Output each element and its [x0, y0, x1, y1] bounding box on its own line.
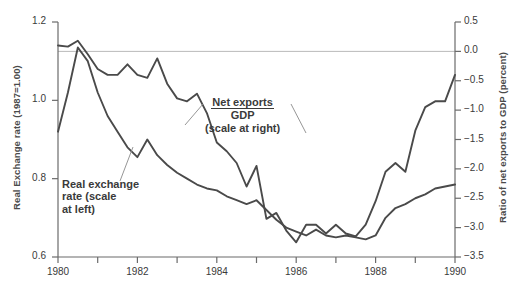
x-axis-tick-label: 1988 [354, 266, 398, 277]
annotation-leader-left [120, 147, 133, 181]
y-axis-right-tick-label: 0.0 [464, 44, 496, 55]
y-axis-right-tick-label: −3.0 [464, 221, 496, 232]
annotation-net-exports-gdp: Net exports GDP (scale at right) [205, 96, 280, 134]
annotation-scale-note: (scale at right) [205, 122, 280, 134]
annotation-leader-right-upper [185, 104, 203, 125]
y-axis-right-tick-label: −2.0 [464, 162, 496, 173]
y-axis-left-tick-label: 0.6 [20, 250, 46, 261]
y-axis-right-tick-label: −1.0 [464, 103, 496, 114]
plot-canvas [0, 0, 513, 293]
y-axis-right-tick-label: 0.5 [464, 15, 496, 26]
y-axis-left-tick-label: 0.8 [20, 172, 46, 183]
annotation-line-3: at left) [62, 203, 95, 215]
y-axis-left-tick-label: 1.0 [20, 93, 46, 104]
annotation-leader-right-lower [291, 104, 306, 133]
y-axis-left-tick-label: 1.2 [20, 15, 46, 26]
x-axis-tick-label: 1986 [274, 266, 318, 277]
annotation-line-2: rate (scale [62, 190, 116, 202]
x-axis-tick-label: 1982 [115, 266, 159, 277]
x-axis-tick-label: 1984 [195, 266, 239, 277]
x-axis-tick-label: 1980 [36, 266, 80, 277]
y-axis-right-tick-label: −2.5 [464, 191, 496, 202]
chart-figure: Real Exchange rate (1987=1.00) Ratio of … [0, 0, 513, 293]
annotation-fraction-numerator: Net exports [205, 96, 280, 109]
x-axis-tick-label: 1990 [433, 266, 477, 277]
y-axis-right-tick-label: −0.5 [464, 74, 496, 85]
annotation-line-1: Real exchange [62, 178, 139, 190]
annotation-real-exchange-rate: Real exchange rate (scale at left) [62, 178, 139, 215]
annotation-fraction-denominator: GDP [205, 109, 280, 121]
y-axis-right-tick-label: −1.5 [464, 133, 496, 144]
y-axis-right-tick-label: −3.5 [464, 250, 496, 261]
